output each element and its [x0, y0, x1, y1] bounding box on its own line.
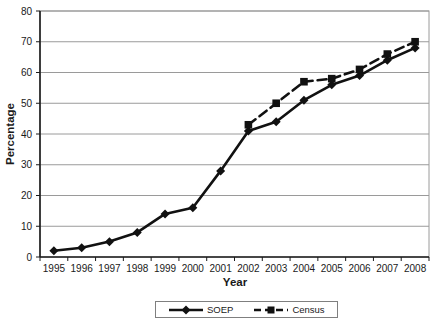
chart-figure: 0102030405060708019951996199719981999200…	[0, 0, 436, 324]
census-marker	[272, 99, 280, 107]
soep-line-swatch-icon	[168, 305, 204, 315]
census-marker	[245, 121, 253, 129]
census-marker	[411, 38, 419, 46]
census-marker	[300, 78, 308, 86]
soep-marker	[49, 246, 58, 255]
census-marker	[384, 50, 392, 58]
soep-marker	[77, 243, 86, 252]
census-marker	[356, 66, 364, 74]
soep-marker	[105, 237, 114, 246]
y-axis-title: Percentage	[4, 103, 16, 165]
legend-label-census: Census	[292, 304, 324, 315]
plot-area	[0, 0, 436, 324]
legend-label-soep: SOEP	[207, 304, 233, 315]
legend-item-soep: SOEP	[168, 304, 233, 315]
census-line-swatch-icon	[253, 305, 289, 315]
legend-item-census: Census	[253, 304, 324, 315]
census-marker	[328, 75, 336, 83]
x-axis-title: Year	[223, 276, 247, 288]
legend: SOEP Census	[155, 301, 338, 318]
